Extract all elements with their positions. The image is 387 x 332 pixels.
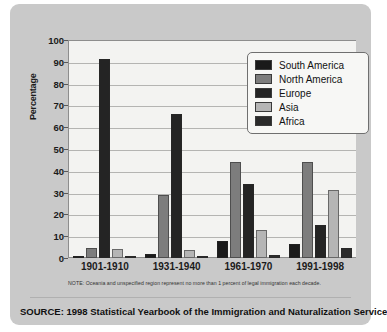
- legend-item[interactable]: South America: [255, 58, 362, 72]
- chart-legend: South AmericaNorth AmericaEuropeAsiaAfri…: [247, 52, 369, 134]
- y-axis-tick-mark: [64, 40, 68, 41]
- bar[interactable]: [256, 230, 267, 258]
- y-axis-tick-label: 70: [38, 100, 64, 111]
- x-axis-tick-label: 1901-1910: [81, 261, 129, 272]
- chart-note: NOTE: Oceania and unspecified region rep…: [28, 280, 361, 286]
- y-axis-tick-mark: [64, 236, 68, 237]
- bar[interactable]: [328, 190, 339, 258]
- legend-label: North America: [279, 74, 342, 85]
- bar[interactable]: [197, 256, 208, 258]
- y-axis-title: Percentage: [28, 106, 38, 120]
- y-axis-tick-mark: [64, 149, 68, 150]
- bar[interactable]: [145, 254, 156, 258]
- legend-swatch: [255, 74, 272, 84]
- bar[interactable]: [73, 256, 84, 258]
- bar-group: [145, 40, 208, 258]
- legend-label: South America: [279, 60, 344, 71]
- y-axis-tick-label: 20: [38, 209, 64, 220]
- legend-swatch: [255, 88, 272, 98]
- legend-swatch: [255, 60, 272, 70]
- y-axis-tick-label: 50: [38, 144, 64, 155]
- y-axis-tick-mark: [64, 62, 68, 63]
- x-axis-tick-label: 1991-1998: [296, 261, 344, 272]
- legend-label: Europe: [279, 88, 311, 99]
- y-axis-tick-mark: [64, 193, 68, 194]
- source-bar: SOURCE: 1998 Statistical Yearbook of the…: [20, 297, 361, 325]
- legend-label: Africa: [279, 116, 305, 127]
- figure-panel: Percentage 0102030405060708090100 1901-1…: [10, 4, 371, 325]
- bar[interactable]: [341, 248, 352, 258]
- y-axis-tick-label: 10: [38, 231, 64, 242]
- bar[interactable]: [289, 244, 300, 258]
- bar-group: [73, 40, 136, 258]
- y-axis-tick-mark: [64, 214, 68, 215]
- y-axis-tick-label: 100: [38, 35, 64, 46]
- y-axis-tick-label: 80: [38, 78, 64, 89]
- x-axis: 1901-19101931-19401961-19701991-1998: [69, 261, 356, 275]
- bar[interactable]: [99, 59, 110, 258]
- legend-item[interactable]: North America: [255, 72, 362, 86]
- y-axis-tick-label: 90: [38, 56, 64, 67]
- bar-chart: Percentage 0102030405060708090100 1901-1…: [28, 12, 358, 274]
- bar[interactable]: [86, 248, 97, 258]
- bar[interactable]: [243, 184, 254, 258]
- bar[interactable]: [112, 249, 123, 258]
- source-text: SOURCE: 1998 Statistical Yearbook of the…: [20, 306, 387, 317]
- bar[interactable]: [171, 114, 182, 258]
- bar[interactable]: [158, 195, 169, 258]
- y-axis-tick-label: 40: [38, 165, 64, 176]
- bar[interactable]: [269, 255, 280, 258]
- x-axis-tick-label: 1961-1970: [224, 261, 272, 272]
- y-axis-tick-label: 60: [38, 122, 64, 133]
- bar[interactable]: [125, 256, 136, 258]
- y-axis-tick-mark: [64, 127, 68, 128]
- legend-swatch: [255, 102, 272, 112]
- bar[interactable]: [217, 241, 228, 258]
- y-axis-tick-mark: [64, 105, 68, 106]
- x-axis-tick-label: 1931-1940: [153, 261, 201, 272]
- y-axis-tick-mark: [64, 258, 68, 259]
- source-divider: [30, 297, 351, 298]
- y-axis-tick-label: 30: [38, 187, 64, 198]
- bar[interactable]: [230, 162, 241, 258]
- bar[interactable]: [302, 162, 313, 258]
- legend-swatch: [255, 116, 272, 126]
- bar[interactable]: [315, 225, 326, 258]
- legend-item[interactable]: Africa: [255, 114, 362, 128]
- y-axis-tick-label: 0: [38, 253, 64, 264]
- legend-label: Asia: [279, 102, 298, 113]
- bar[interactable]: [184, 250, 195, 258]
- y-axis-tick-mark: [64, 84, 68, 85]
- legend-item[interactable]: Europe: [255, 86, 362, 100]
- legend-item[interactable]: Asia: [255, 100, 362, 114]
- y-axis-tick-mark: [64, 171, 68, 172]
